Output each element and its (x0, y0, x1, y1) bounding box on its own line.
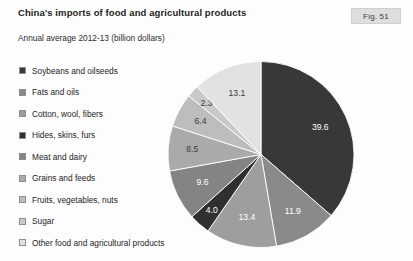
pie-slice-value-label: 13.4 (238, 212, 255, 222)
legend-item-label: Other food and agricultural products (32, 239, 164, 247)
figure-number-badge: Fig. 51 (351, 8, 401, 24)
page-title: China's imports of food and agricultural… (18, 7, 246, 18)
chart-subtitle: Annual average 2012-13 (billion dollars) (18, 33, 165, 43)
legend-swatch-icon (19, 153, 26, 160)
legend-swatch-icon (19, 239, 26, 246)
pie-slice-value-label: 13.1 (229, 88, 246, 98)
pie-chart-svg: 39.611.913.44.09.68.56.42.313.1 (166, 58, 356, 251)
legend-swatch-icon (19, 132, 26, 139)
figure-root: China's imports of food and agricultural… (0, 0, 413, 261)
legend-swatch-icon (19, 175, 26, 182)
pie-slice-value-label: 8.5 (186, 144, 198, 154)
legend-item-label: Cotton, wool, fibers (32, 110, 103, 118)
pie-slice-value-label: 9.6 (197, 177, 209, 187)
legend-item-label: Meat and dairy (32, 153, 87, 161)
legend-item-label: Fruits, vegetables, nuts (32, 196, 118, 204)
legend-item-label: Sugar (32, 217, 54, 225)
pie-slice-value-label: 4.0 (206, 205, 218, 215)
legend-item-label: Hides, skins, furs (32, 131, 95, 139)
legend-swatch-icon (19, 67, 26, 74)
legend-swatch-icon (19, 196, 26, 203)
pie-slice-value-label: 11.9 (285, 206, 301, 216)
legend-swatch-icon (19, 110, 26, 117)
pie-slice-value-label: 39.6 (312, 122, 329, 132)
legend-swatch-icon (19, 89, 26, 96)
pie-chart: 39.611.913.44.09.68.56.42.313.1 (166, 58, 356, 251)
legend-item-label: Soybeans and oilseeds (32, 67, 118, 75)
pie-slice-value-label: 6.4 (195, 116, 207, 126)
legend-item-label: Fats and oils (32, 88, 79, 96)
legend-swatch-icon (19, 218, 26, 225)
legend-item-label: Grains and feeds (32, 174, 95, 182)
